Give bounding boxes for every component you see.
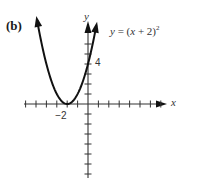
y-tick-label: 4: [95, 57, 101, 68]
y-axis-label: y: [84, 10, 89, 22]
y-axis: [85, 21, 92, 178]
x-tick-label: −2: [55, 110, 66, 121]
x-axis-label: x: [171, 96, 176, 108]
parabola-plot: [0, 0, 199, 180]
x-axis: [24, 101, 167, 108]
